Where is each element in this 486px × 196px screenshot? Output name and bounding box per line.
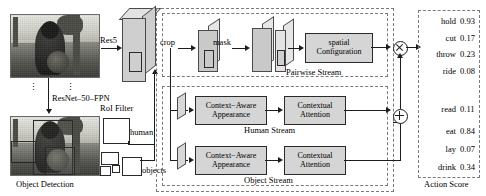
score-name-0: hold xyxy=(422,16,456,26)
conn-object-caa-to-att-arrow xyxy=(278,157,283,163)
conn-object-up xyxy=(400,122,401,161)
conn-human-caa-to-att xyxy=(265,110,279,111)
score-name-7: drink xyxy=(422,162,456,172)
mask-plane2-window xyxy=(277,50,285,66)
score-value-6: 0.07 xyxy=(460,144,486,154)
conn-human-caa-to-att-arrow xyxy=(278,107,283,113)
mask-plane-front xyxy=(252,28,272,72)
crop-label: crop xyxy=(160,38,175,47)
score-name-5: eat xyxy=(422,126,456,136)
detection-box-background xyxy=(11,141,36,163)
spatial-configuration-box[interactable]: spatial Configuration xyxy=(305,33,373,63)
mask-label: mask xyxy=(213,38,231,47)
human-att-text: Contextual Attention xyxy=(297,102,332,120)
detection-box-object xyxy=(45,147,75,175)
spatial-configuration-text: spatial Configuration xyxy=(317,39,362,57)
add-operator xyxy=(393,109,408,124)
score-name-4: read xyxy=(422,104,456,114)
score-ellipsis-names: ⋮ xyxy=(28,84,38,90)
score-value-5: 0.84 xyxy=(460,126,486,136)
roi-filter-label: RoI Filter xyxy=(100,104,133,113)
conn-res5 xyxy=(101,48,117,49)
conn-plus-to-mul-arrow xyxy=(397,53,403,58)
object-context-aware-appearance-box[interactable]: Context−Aware Appearance xyxy=(195,146,267,175)
object-att-line-2: Attention xyxy=(300,160,330,169)
conn-human-plane-arrow xyxy=(189,107,194,113)
score-name-2: throw xyxy=(422,49,456,59)
photo-grain xyxy=(11,15,99,77)
conn-objects-join xyxy=(154,144,155,161)
conn-photo-down xyxy=(48,78,49,110)
conn-crop xyxy=(178,48,192,49)
conn-human-right xyxy=(128,144,154,145)
conn-object-caa-to-att xyxy=(265,160,279,161)
conn-mask xyxy=(232,48,246,49)
human-att-line-2: Attention xyxy=(300,110,330,119)
object-caa-text: Context−Aware Appearance xyxy=(206,152,256,170)
conn-human-box-down xyxy=(128,141,129,145)
crop-plane-window xyxy=(204,50,214,68)
score-name-3: ride xyxy=(422,66,456,76)
object-roi-box-1 xyxy=(101,152,119,165)
human-caa-text: Context−Aware Appearance xyxy=(206,102,256,120)
score-value-7: 0.34 xyxy=(460,162,486,172)
score-value-1: 0.17 xyxy=(460,33,486,43)
conn-photo-down-arrow xyxy=(46,109,52,114)
res5-feature-cuboid xyxy=(120,8,158,86)
detected-image-photo xyxy=(10,116,100,176)
object-roi-box-2 xyxy=(100,166,111,176)
spatial-line-2: Configuration xyxy=(317,47,362,56)
crop-feature-planes xyxy=(196,22,226,74)
score-value-2: 0.23 xyxy=(460,49,486,59)
add-stroke-v xyxy=(399,111,400,120)
conn-object-out xyxy=(344,160,400,161)
cuboid-roi-window xyxy=(129,52,142,72)
object-att-text: Contextual Attention xyxy=(297,152,332,170)
object-stream-label: Object Stream xyxy=(244,176,293,185)
conn-human-out-arrow xyxy=(386,107,391,113)
figure-canvas: Object Detection ResNet–50–FPN RoI Filte… xyxy=(0,0,486,196)
conn-object-plane-arrow xyxy=(189,157,194,163)
human-label: human xyxy=(130,128,153,137)
spatial-line-1: spatial xyxy=(329,38,350,47)
human-stream-label: Human Stream xyxy=(244,126,295,135)
human-att-line-1: Contextual xyxy=(297,101,332,110)
action-score-caption: Action Score xyxy=(424,180,469,189)
object-roi-box-3 xyxy=(112,165,120,173)
score-ellipsis-values: ⋮ xyxy=(65,84,75,90)
object-roi-box-4 xyxy=(122,157,142,176)
object-contextual-attention-box[interactable]: Contextual Attention xyxy=(284,146,346,175)
score-name-1: cut xyxy=(422,33,456,43)
score-value-3: 0.08 xyxy=(460,66,486,76)
score-value-4: 0.11 xyxy=(460,104,486,114)
conn-human-out xyxy=(344,110,390,111)
res5-label: Res5 xyxy=(100,36,117,45)
object-caa-line-1: Context−Aware xyxy=(206,151,256,160)
conn-objects-right xyxy=(140,160,154,161)
conn-to-spatial-arrow xyxy=(299,45,304,51)
conn-spatial-to-mul-arrow xyxy=(386,44,391,50)
cuboid-front-face xyxy=(122,18,146,82)
object-caa-line-2: Appearance xyxy=(212,160,250,169)
conn-plus-to-mul xyxy=(400,56,401,109)
input-image-photo xyxy=(10,14,100,78)
conn-feed-down xyxy=(170,48,171,160)
human-caa-line-1: Context−Aware xyxy=(206,101,256,110)
score-name-6: lay xyxy=(422,144,456,154)
human-roi-box xyxy=(103,118,130,144)
object-att-line-1: Contextual xyxy=(297,151,332,160)
object-detection-caption: Object Detection xyxy=(16,180,74,189)
backbone-label: ResNet–50–FPN xyxy=(52,94,110,103)
human-context-aware-appearance-box[interactable]: Context−Aware Appearance xyxy=(195,96,267,125)
human-contextual-attention-box[interactable]: Contextual Attention xyxy=(284,96,346,125)
score-value-0: 0.93 xyxy=(460,16,486,26)
human-caa-line-2: Appearance xyxy=(212,110,250,119)
